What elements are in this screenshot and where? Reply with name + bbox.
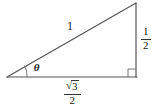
fraction-denominator: 2 [141,40,151,52]
opposite-side-label: 1 2 [141,26,151,51]
fraction-numerator: √ 3 [64,80,81,93]
fraction-denominator: 2 [64,95,81,105]
right-angle-marker-icon [128,69,136,77]
triangle-figure: 1 θ 1 2 √ 3 2 [0,0,160,105]
fraction-numerator: 1 [141,26,151,38]
angle-arc [24,66,27,78]
radical-sign-icon: √ [66,80,72,92]
angle-theta-label: θ [31,62,42,73]
fraction-sqrt3-over-2: √ 3 2 [64,80,81,105]
adjacent-side-label: √ 3 2 [64,80,81,105]
hypotenuse-line [7,3,136,77]
fraction-one-half: 1 2 [141,26,151,51]
radical-expression: √ 3 [66,80,79,93]
radicand: 3 [71,80,79,93]
hypotenuse-label: 1 [64,20,76,32]
